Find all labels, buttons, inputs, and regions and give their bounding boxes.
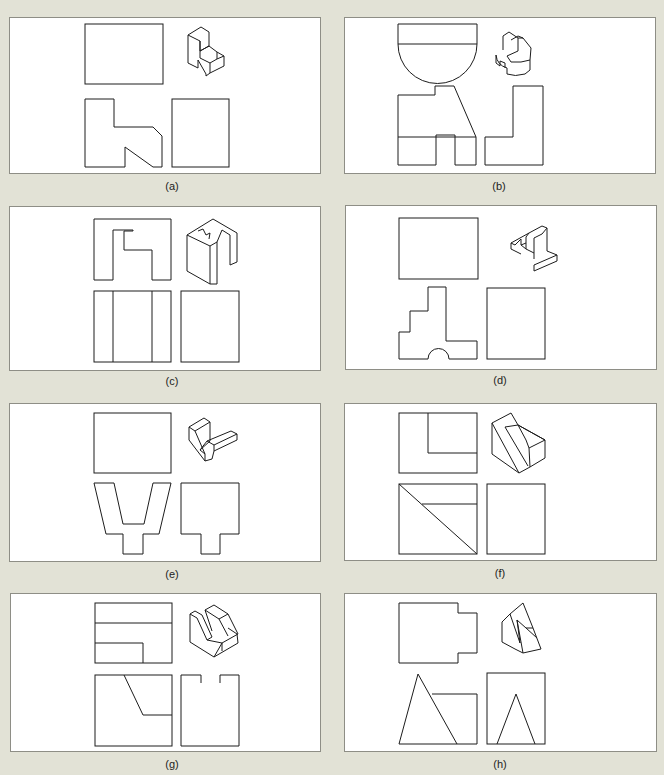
top-view (85, 24, 163, 84)
panel-g (10, 593, 321, 752)
top-view (399, 413, 477, 473)
caption-b: (b) (479, 180, 519, 192)
side-view (181, 291, 239, 362)
side-view (181, 483, 239, 554)
panel-h (344, 593, 657, 752)
isometric-view (492, 413, 545, 473)
panel-a (9, 17, 321, 174)
front-view (95, 675, 172, 746)
panel-d (345, 205, 657, 370)
caption-g: (g) (152, 758, 192, 770)
front-view (94, 483, 171, 554)
side-view (181, 675, 239, 746)
front-view (94, 291, 171, 362)
front-view (85, 99, 162, 167)
top-view (399, 603, 477, 663)
side-view (485, 86, 543, 165)
panel-f (344, 403, 657, 561)
drawing-e (10, 404, 322, 563)
front-view (398, 86, 476, 165)
drawing-f (345, 404, 658, 562)
side-view (487, 484, 545, 554)
front-view (399, 484, 477, 554)
panel-b (344, 17, 656, 174)
drawing-b (345, 18, 657, 175)
top-view (95, 603, 172, 663)
panel-c (9, 206, 321, 371)
front-view (399, 674, 477, 744)
drawing-d (346, 206, 658, 371)
top-view (94, 219, 171, 280)
isometric-view (496, 32, 531, 76)
caption-a: (a) (152, 180, 192, 192)
caption-e: (e) (152, 568, 192, 580)
side-view (487, 288, 545, 359)
caption-d: (d) (480, 374, 520, 386)
drawing-g (11, 594, 322, 753)
isometric-view (189, 418, 237, 461)
caption-f: (f) (480, 567, 520, 579)
isometric-view (511, 226, 557, 271)
isometric-view (502, 603, 541, 653)
isometric-view (187, 219, 237, 284)
top-view (94, 413, 171, 473)
top-view (399, 218, 478, 279)
drawing-c (10, 207, 322, 372)
top-view (398, 24, 477, 84)
caption-h: (h) (480, 758, 520, 770)
front-view (399, 287, 477, 359)
drawing-h (345, 594, 658, 753)
side-view (487, 673, 545, 744)
panel-e (9, 403, 321, 562)
drawing-a (10, 18, 322, 175)
caption-c: (c) (152, 375, 192, 387)
isometric-view (190, 605, 238, 657)
isometric-view (188, 27, 224, 76)
side-view (172, 99, 229, 167)
